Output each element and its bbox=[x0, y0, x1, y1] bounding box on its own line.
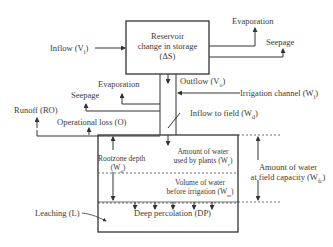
seepage-mid-label: Seepage bbox=[71, 90, 99, 100]
seepage-top-label: Seepage bbox=[266, 37, 294, 47]
rootzone-label: Rootzone depth (Wd) bbox=[100, 154, 136, 176]
leaching-label: Leaching (L) bbox=[35, 208, 80, 218]
inflow-label: Inflow (Vi) bbox=[50, 43, 88, 57]
field-capacity-label: Amount of water at field capacity (Wfc) bbox=[243, 162, 333, 186]
operational-loss-label: Operational loss (O) bbox=[57, 117, 126, 127]
outflow-label: Outflow (Vo) bbox=[180, 76, 225, 90]
runoff-label: Runoff (RO) bbox=[14, 105, 58, 115]
evaporation-mid-label: Evaporation bbox=[98, 79, 140, 89]
used-by-plants-label: Amount of water used by plants (Wc) bbox=[168, 147, 238, 169]
deep-percolation-label: Deep percolation (DP) bbox=[134, 208, 211, 218]
evaporation-top-label: Evaporation bbox=[232, 16, 274, 26]
reservoir-label: Reservoir change in storage (ΔS) bbox=[126, 31, 209, 61]
irrigation-channel-label: Irrigation channel (Wi) bbox=[240, 88, 318, 102]
before-irrigation-label: Volume of water before irrigation (Wm) bbox=[160, 178, 240, 200]
inflow-to-field-label: Inflow to field (Wd) bbox=[190, 108, 258, 122]
water-balance-diagram: Reservoir change in storage (ΔS) Inflow … bbox=[0, 0, 333, 247]
